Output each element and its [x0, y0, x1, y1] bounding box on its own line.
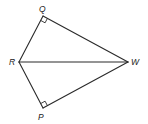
- kite-diagram: QRWP: [0, 0, 148, 124]
- segment-pw: [43, 62, 128, 108]
- segment-qr: [19, 16, 43, 62]
- segment-qw: [43, 16, 128, 62]
- vertex-label-w: W: [131, 57, 140, 67]
- vertex-label-r: R: [9, 57, 15, 67]
- vertex-labels: QRWP: [9, 4, 140, 122]
- vertex-label-p: P: [38, 112, 44, 122]
- segment-rp: [19, 62, 43, 108]
- vertex-label-q: Q: [39, 4, 46, 14]
- segments: [19, 16, 128, 108]
